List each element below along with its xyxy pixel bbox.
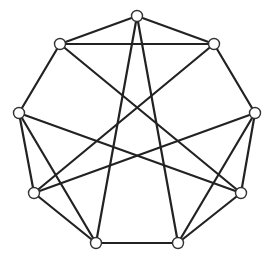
edge-n0-n4 xyxy=(137,16,178,243)
edge-n0-n1 xyxy=(137,16,214,44)
node-top xyxy=(132,11,143,22)
edge-n8-n7 xyxy=(19,44,60,113)
edge-n1-n2 xyxy=(214,44,255,113)
node-upper-right xyxy=(209,39,220,50)
node-layer xyxy=(14,11,261,249)
edge-n1-n6 xyxy=(34,44,214,193)
graph-diagram xyxy=(0,0,274,263)
node-right xyxy=(250,108,261,119)
node-lower-right xyxy=(236,188,247,199)
edge-n7-n3 xyxy=(19,113,241,193)
edge-n3-n4 xyxy=(178,193,241,243)
edge-layer xyxy=(19,16,255,243)
edge-n2-n6 xyxy=(34,113,255,193)
edge-n0-n8 xyxy=(60,16,137,44)
edge-n8-n3 xyxy=(60,44,241,193)
node-lower-left xyxy=(29,188,40,199)
node-bottom-right xyxy=(173,238,184,249)
edge-n0-n5 xyxy=(96,16,137,243)
node-upper-left xyxy=(55,39,66,50)
node-bottom-left xyxy=(91,238,102,249)
node-left xyxy=(14,108,25,119)
edge-n6-n5 xyxy=(34,193,96,243)
